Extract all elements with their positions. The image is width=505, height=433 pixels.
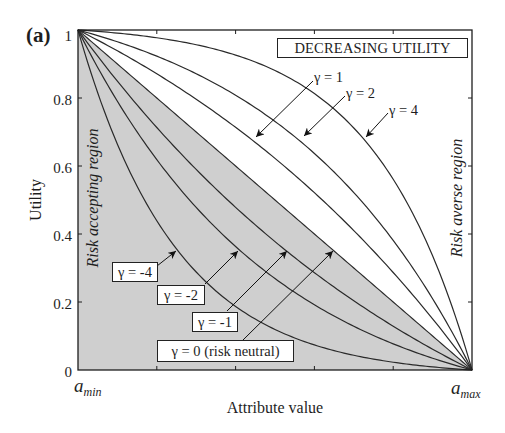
- label-gamma-minus-4: γ = -4: [112, 262, 158, 282]
- arrow-gamma-2: [304, 96, 345, 136]
- label-gamma-minus-2: γ = -2: [157, 285, 205, 305]
- x-max-label: amax: [451, 378, 481, 400]
- ytick-label-0.4: 0.4: [30, 229, 72, 244]
- ytick-label-0.2: 0.2: [30, 297, 72, 312]
- risk-accepting-region-label: Risk accepting region: [85, 129, 101, 268]
- x-min-base: a: [74, 375, 84, 396]
- label-gamma-1: γ = 1: [314, 70, 343, 85]
- y-axis-label: Utility: [28, 179, 44, 221]
- utility-chart-canvas: [0, 0, 505, 433]
- x-min-subscript: min: [84, 385, 102, 399]
- x-max-base: a: [451, 377, 461, 398]
- label-gamma-4: γ = 4: [389, 103, 418, 118]
- ytick-label-0.6: 0.6: [30, 161, 72, 176]
- ytick-label-0.8: 0.8: [30, 93, 72, 108]
- arrow-gamma-4: [366, 113, 388, 137]
- risk-averse-region-label: Risk averse region: [449, 139, 465, 257]
- ytick-label-1: 1: [30, 29, 72, 44]
- chart-title-box: DECREASING UTILITY: [277, 38, 468, 58]
- label-gamma-minus-1: γ = -1: [192, 312, 238, 332]
- ytick-label-0: 0: [30, 365, 72, 380]
- x-min-label: amin: [74, 376, 102, 398]
- x-max-subscript: max: [461, 387, 481, 401]
- label-gamma-0-risk-neutral: γ = 0 (risk neutral): [157, 340, 294, 362]
- label-gamma-2: γ = 2: [346, 86, 375, 101]
- x-axis-label: Attribute value: [227, 400, 323, 416]
